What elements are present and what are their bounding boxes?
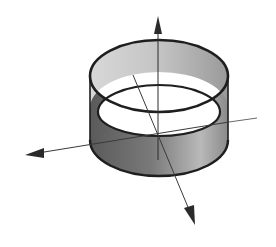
diagram-canvas: Cylinder (lateral surface) with three co…: [0, 0, 276, 247]
z-axis-arrowhead-icon: [154, 16, 162, 34]
cylinder-diagram: [0, 0, 276, 247]
x-axis-back: [229, 118, 257, 122]
y-axis-arrowhead-icon: [25, 148, 44, 158]
x-axis-arrowhead-icon: [184, 205, 195, 225]
